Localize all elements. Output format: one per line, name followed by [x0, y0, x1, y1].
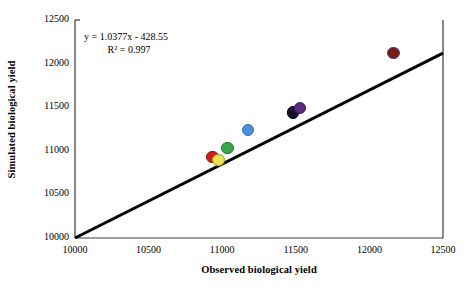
y-tick-label: 12000 — [21, 57, 69, 68]
point-maroon — [387, 47, 399, 59]
regression-equation: y = 1.0377x - 428.55 — [84, 31, 168, 42]
x-tick-label: 11500 — [271, 244, 321, 255]
x-tick-label: 12000 — [344, 244, 394, 255]
point-yellow — [212, 154, 224, 166]
regression-annotation: y = 1.0377x - 428.55 R² = 0.997 — [84, 30, 168, 56]
y-tick-label: 12500 — [21, 13, 69, 24]
y-axis-title-text: Simulated biological yield — [6, 60, 17, 178]
r-squared-value: R² = 0.997 — [84, 43, 168, 56]
y-tick-label: 10000 — [21, 231, 69, 242]
one-to-one-reference-line — [75, 53, 443, 238]
x-axis-title: Observed biological yield — [75, 264, 443, 275]
x-tick-label: 11000 — [197, 244, 247, 255]
point-green — [221, 142, 233, 154]
x-tick-label: 10500 — [124, 244, 174, 255]
y-tick-label: 11500 — [21, 100, 69, 111]
x-tick-label: 10000 — [50, 244, 100, 255]
y-axis-title: Simulated biological yield — [2, 0, 20, 238]
y-tick-label: 10500 — [21, 187, 69, 198]
scatter-chart: Simulated biological yield Observed biol… — [0, 0, 469, 290]
x-axis-title-text: Observed biological yield — [201, 264, 317, 275]
y-tick-label: 11000 — [21, 144, 69, 155]
x-tick-label: 12500 — [418, 244, 468, 255]
